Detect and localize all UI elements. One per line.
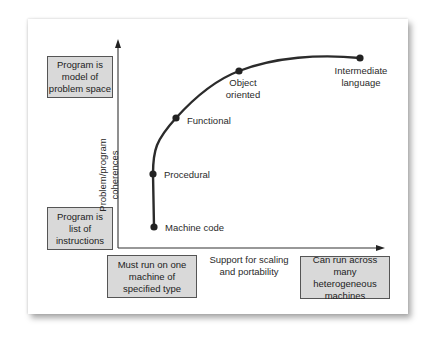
label-machine-code: Machine code xyxy=(165,222,224,234)
label-object-oriented: Object oriented xyxy=(224,77,262,101)
y-axis-arrow-icon xyxy=(115,39,121,48)
point-object-oriented xyxy=(235,67,242,74)
label-functional: Functional xyxy=(187,115,231,127)
label-intermediate-language: Intermediate language xyxy=(331,65,391,89)
point-functional xyxy=(172,114,179,121)
y-axis-label: Problem/program coherences xyxy=(97,125,121,225)
box-model-of-problem-space: Program is model of problem space xyxy=(47,56,113,98)
point-machine-code xyxy=(150,223,157,230)
point-intermediate-language xyxy=(356,54,363,61)
x-axis-label: Support for scaling and portability xyxy=(205,254,293,278)
box-heterogeneous-machines: Can run across many heterogeneous machin… xyxy=(300,256,390,299)
x-axis-arrow-icon xyxy=(376,245,385,251)
label-procedural: Procedural xyxy=(164,169,210,181)
point-procedural xyxy=(149,170,156,177)
box-one-machine: Must run on one machine of specified typ… xyxy=(107,255,197,298)
